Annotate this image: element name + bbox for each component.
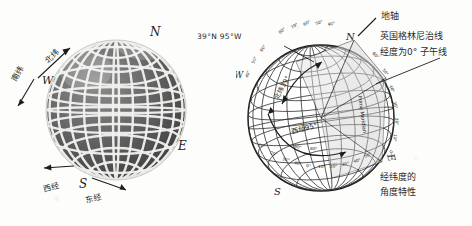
right-globe-south-label: S [274,186,281,197]
svg-text:70°: 70° [290,22,299,30]
figure-caption-line2: 角度特性 [380,185,416,200]
left-globe-east-label: E [177,139,187,153]
figure-caption: 经纬度的 角度特性 [380,170,416,200]
svg-text:50°: 50° [250,56,258,65]
svg-text:80°: 80° [310,146,318,151]
svg-text:80°: 80° [278,26,287,35]
east-longitude-label: 东经 [84,192,102,205]
svg-text:60°: 60° [259,44,267,53]
south-latitude-arrow [18,79,34,106]
coordinate-label: 39°N 95°W [197,32,242,41]
earth-axis-line [358,18,376,36]
west-longitude-label: 西经 [42,180,60,194]
figure-caption-line1: 经纬度的 [380,170,416,185]
earth-axis-label: 地轴 [381,9,399,22]
svg-text:90°: 90° [294,144,302,150]
right-globe-west-label: W [236,70,244,80]
svg-text:0°: 0° [306,163,311,168]
north-latitude-label: 北纬 [42,47,60,65]
svg-text:60°: 60° [302,19,311,27]
svg-text:20°: 20° [394,118,400,126]
right-globe-north-label: N [345,31,356,42]
figure-canvas: N E S W 北纬 南纬 西经 东经 [0,0,472,226]
south-latitude-label: 南纬 [9,64,25,83]
svg-text:40°: 40° [327,21,335,27]
greenwich-callout-line1: 英国格林尼治线 [380,28,447,44]
left-globe-north-label: N [149,25,161,39]
greenwich-callout-line2: 经度为0° 子午线 [380,44,447,60]
greenwich-callout: 英国格林尼治线 经度为0° 子午线 [380,28,447,60]
left-globe-west-label: W [42,74,55,87]
svg-text:10°: 10° [392,134,398,142]
svg-text:20°: 20° [330,163,338,169]
svg-text:10°: 10° [318,164,326,169]
left-globe-south-label: S [79,177,87,191]
svg-text:60°: 60° [371,51,380,60]
svg-text:50°: 50° [315,19,324,26]
svg-text:40°: 40° [244,70,251,79]
